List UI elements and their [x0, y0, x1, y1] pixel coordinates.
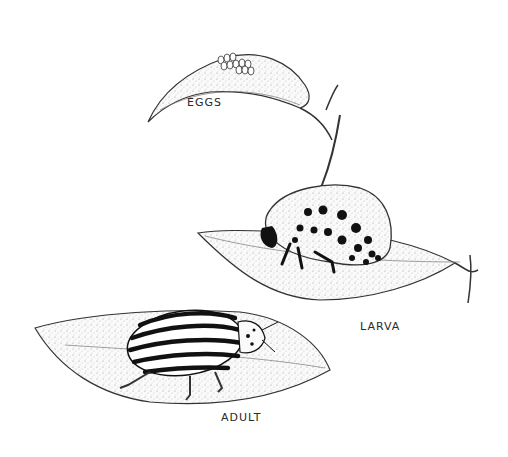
life-cycle-illustration: EGGS LARVA ADULT [0, 0, 508, 457]
larva-label: LARVA [360, 320, 400, 333]
adult-label: ADULT [221, 411, 261, 424]
eggs-label: EGGS [187, 96, 222, 109]
